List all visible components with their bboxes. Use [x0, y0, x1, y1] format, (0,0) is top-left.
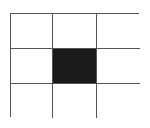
grid-cell-r3-c1: [11, 84, 53, 118]
grid-cell-r2-c1: [11, 49, 53, 84]
grid-cell-r1-c3: [97, 14, 140, 49]
grid-cell-r1-c1: [11, 14, 53, 49]
grid-cell-r1-c2: [53, 14, 97, 49]
grid-cell-r2-c3: [97, 49, 140, 84]
grid-cell-r3-c2: [53, 84, 97, 118]
three-by-three-grid: [10, 13, 139, 117]
grid-cell-r2-c2-filled: [53, 49, 97, 84]
grid-cell-r3-c3: [97, 84, 140, 118]
